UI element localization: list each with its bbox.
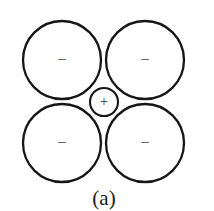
anion-bottom-left-charge-label: –	[57, 133, 66, 149]
anion-bottom-right: –	[106, 104, 184, 182]
anion-top-left: –	[23, 21, 101, 99]
cation-center-charge-label: +	[100, 94, 108, 109]
anion-top-left-charge-label: –	[57, 50, 66, 66]
anion-top-right-charge-label: –	[140, 50, 149, 66]
ion-coordination-diagram: – – – – + (a)	[0, 0, 214, 211]
cation-center: +	[90, 88, 118, 116]
figure-caption: (a)	[92, 186, 115, 210]
figure-panel: – – – – + (a)	[0, 0, 214, 211]
anion-bottom-right-charge-label: –	[140, 133, 149, 149]
anion-top-right: –	[106, 21, 184, 99]
anion-bottom-left: –	[23, 104, 101, 182]
